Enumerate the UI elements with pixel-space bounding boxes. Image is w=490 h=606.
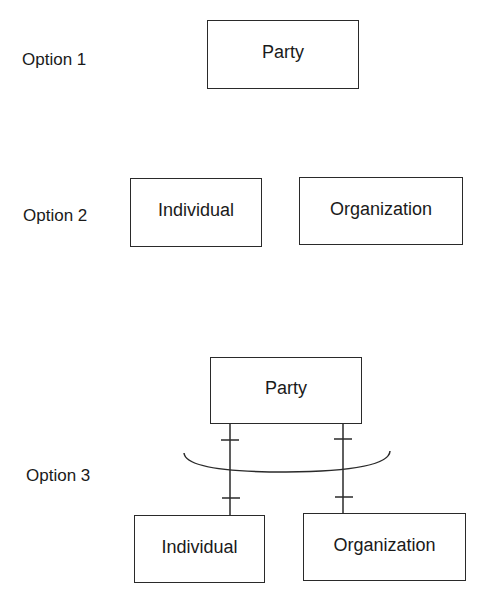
entity-name: Party	[265, 378, 307, 399]
entity-individual-option-3: Individual	[134, 515, 265, 583]
exclusive-arc-icon	[184, 451, 390, 472]
entity-name: Organization	[333, 535, 435, 556]
entity-name: Individual	[161, 537, 237, 558]
option-3-label: Option 3	[26, 466, 90, 486]
entity-organization-option-3: Organization	[303, 513, 466, 581]
entity-party-option-3: Party	[210, 357, 362, 424]
